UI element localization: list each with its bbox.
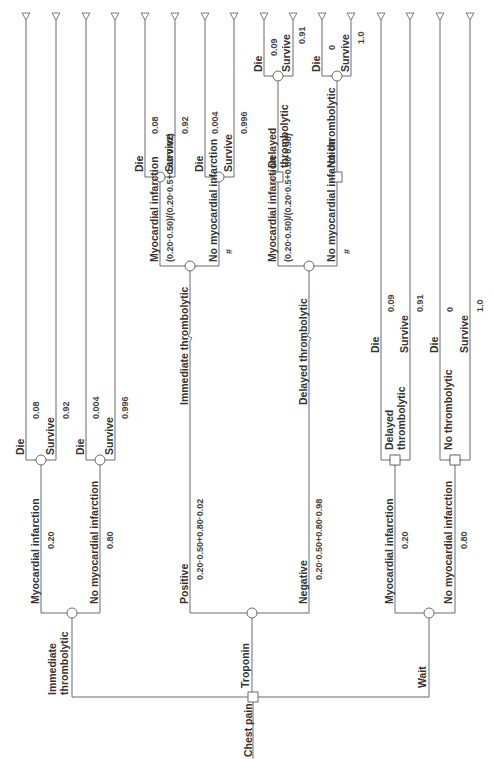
terminal-node-icon	[111, 13, 119, 20]
action-label: No thrombolytic	[325, 87, 337, 168]
outcome-prob: 0.004	[91, 396, 101, 419]
outcome-prob: 0	[327, 45, 337, 50]
terminal-node-icon	[318, 13, 326, 20]
terminal-nodes	[22, 13, 474, 20]
outcome-prob: 0.004	[210, 111, 220, 134]
branch-label: Myocardial infarction	[266, 156, 278, 262]
chance-node-icon	[185, 261, 195, 271]
outcome-label: Die	[193, 156, 205, 173]
outcome-prob: 0.996	[120, 396, 130, 419]
outcome-label: Survive	[339, 34, 351, 72]
strategy-immediate-label: Immediate	[46, 643, 58, 695]
outcome-label: Die	[14, 439, 26, 456]
outcome-label: Die	[310, 56, 322, 73]
action-label: Immediate thrombolytic	[178, 286, 190, 405]
terminal-node-icon	[347, 13, 355, 20]
result-positive-prob: 0.20·0.50+0.80·0.02	[195, 499, 205, 580]
terminal-node-icon	[82, 13, 90, 20]
labels: Chest pain Immediate thrombolytic Myocar…	[14, 26, 485, 757]
terminal-node-icon	[22, 13, 30, 20]
terminal-node-icon	[466, 13, 474, 20]
outcome-prob: 0	[445, 307, 455, 312]
terminal-node-icon	[171, 13, 179, 20]
outcome-label: Die	[133, 156, 145, 173]
action-label: Delayed thrombolytic	[297, 298, 309, 405]
strategy-immediate-label: thrombolytic	[58, 631, 70, 695]
outcome-prob: 1.0	[356, 31, 366, 44]
terminal-node-icon	[52, 13, 60, 20]
branch-prob: #	[224, 249, 234, 254]
outcome-prob: 0.08	[31, 401, 41, 419]
decision-node-icon	[390, 455, 400, 465]
terminal-node-icon	[260, 13, 268, 20]
outcome-label: Die	[428, 337, 440, 354]
result-positive-label: Positive	[178, 564, 190, 604]
terminal-node-icon	[289, 13, 297, 20]
branch-label: No myocardial infarction	[442, 481, 454, 604]
terminal-node-icon	[201, 13, 209, 20]
action-label: Delayed	[383, 410, 395, 450]
outcome-label: Die	[74, 439, 86, 456]
branch-prob: 0.20	[46, 531, 56, 549]
branch-label: Myocardial infarction	[29, 498, 41, 604]
chance-node-icon	[67, 608, 77, 618]
chance-node-icon	[304, 261, 314, 271]
outcome-prob: 0.09	[269, 38, 279, 56]
chance-node-icon	[247, 608, 257, 618]
decision-nodes	[248, 172, 460, 702]
terminal-node-icon	[377, 13, 385, 20]
action-label: No thrombolytic	[442, 369, 454, 450]
branch-prob: 0.80	[459, 531, 469, 549]
outcome-prob: 0.91	[415, 294, 425, 312]
outcome-label: Survive	[398, 315, 410, 353]
chance-node-icon	[95, 455, 105, 465]
outcome-prob: 0.92	[180, 116, 190, 134]
decision-tree-canvas: Chest pain Immediate thrombolytic Myocar…	[0, 0, 494, 759]
result-negative-label: Negative	[297, 560, 309, 604]
terminal-node-icon	[436, 13, 444, 20]
outcome-label: Survive	[163, 134, 175, 172]
action-label: thrombolytic	[395, 386, 407, 450]
outcome-prob: 0.09	[386, 294, 396, 312]
outcome-prob: 1.0	[475, 299, 485, 312]
strategy-wait-label: Wait	[416, 666, 428, 688]
strategy-troponin-label: Troponin	[239, 643, 251, 688]
terminal-node-icon	[141, 13, 149, 20]
terminal-node-icon	[406, 13, 414, 20]
outcome-prob: 0.91	[297, 26, 307, 44]
branch-label: Myocardial infarction	[383, 498, 395, 604]
outcome-label: Die	[369, 337, 381, 354]
branch-label: No myocardial infarction	[207, 139, 219, 262]
chance-node-icon	[424, 608, 434, 618]
root-label: Chest pain	[242, 703, 254, 757]
outcome-label: Die	[252, 56, 264, 73]
outcome-label: Survive	[280, 34, 292, 72]
action-label: thrombolytic	[278, 104, 290, 168]
outcome-prob: 0.92	[61, 401, 71, 419]
outcome-label: Survive	[458, 315, 470, 353]
outcome-label: Survive	[103, 417, 115, 455]
outcome-label: Survive	[44, 417, 56, 455]
root-decision-node-icon	[248, 692, 258, 702]
branch-prob: 0.20	[400, 531, 410, 549]
action-label: Delayed	[266, 128, 278, 168]
terminal-node-icon	[230, 13, 238, 20]
outcome-prob: 0.08	[150, 116, 160, 134]
branch-prob: #	[342, 249, 352, 254]
outcome-prob: 0.996	[239, 111, 249, 134]
branch-prob: 0.80	[105, 531, 115, 549]
chance-node-icon	[36, 455, 46, 465]
branch-label: Myocardial infarction	[148, 156, 160, 262]
result-negative-prob: 0.20·0.50+0.80·0.98	[314, 499, 324, 580]
outcome-label: Survive	[222, 134, 234, 172]
branch-label: No myocardial infarction	[88, 481, 100, 604]
decision-node-icon	[450, 455, 460, 465]
